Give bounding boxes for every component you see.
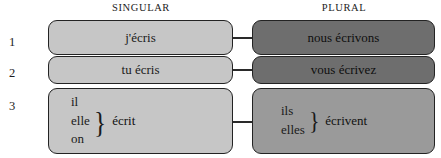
plural-box-row-3: ils elles } écrivent: [252, 88, 435, 154]
column-header-plural: PLURAL: [252, 2, 436, 13]
plural-verb-row-3: écrivent: [325, 113, 367, 129]
curly-brace-icon: }: [309, 109, 320, 132]
connector-line-row-2: [231, 69, 253, 71]
pronoun-on: on: [71, 130, 90, 149]
singular-verb-row-3: écrit: [112, 113, 135, 129]
singular-box-row-3: il elle on } écrit: [48, 88, 233, 154]
plural-box-row-1: nous écrivons: [252, 20, 435, 55]
plural-form-row-2: vous écrivez: [253, 62, 434, 78]
pronoun-elles: elles: [281, 121, 305, 140]
singular-box-row-2: tu écris: [48, 56, 233, 84]
row-number-1: 1: [4, 35, 20, 50]
plural-form-row-1: nous écrivons: [253, 30, 434, 46]
row-number-2: 2: [4, 66, 20, 81]
plural-pronoun-stack-row-3: ils elles: [281, 102, 305, 140]
pronoun-il: il: [71, 93, 90, 112]
plural-group-row-3: ils elles } écrivent: [281, 102, 367, 140]
pronoun-elle: elle: [71, 112, 90, 131]
singular-box-row-1: j'écris: [48, 20, 233, 55]
column-header-singular: SINGULAR: [48, 2, 234, 13]
conjugation-chart: SINGULAR PLURAL 1 2 3 j'écris nous écriv…: [0, 0, 441, 158]
singular-form-row-2: tu écris: [49, 62, 232, 78]
connector-line-row-3: [231, 121, 253, 123]
row-number-3: 3: [4, 99, 20, 114]
connector-line-row-1: [231, 37, 253, 39]
pronoun-ils: ils: [281, 102, 305, 121]
singular-pronoun-stack-row-3: il elle on: [71, 93, 90, 150]
singular-group-row-3: il elle on } écrit: [71, 93, 135, 150]
plural-box-row-2: vous écrivez: [252, 56, 435, 84]
singular-form-row-1: j'écris: [49, 30, 232, 46]
curly-brace-icon: }: [94, 108, 106, 135]
